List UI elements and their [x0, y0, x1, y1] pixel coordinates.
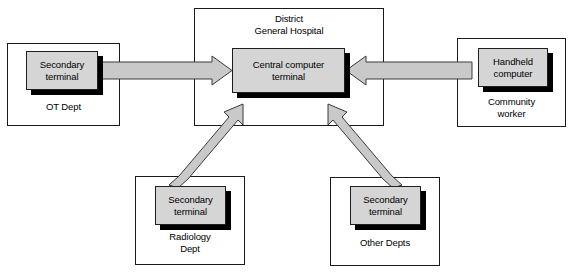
- node-label-central-terminal: Central computer terminal: [250, 59, 327, 82]
- zone-label-radiology-dept: Radiology Dept: [135, 231, 245, 254]
- node-central-terminal: Central computer terminal: [232, 48, 345, 93]
- zone-label-hospital: District General Hospital: [194, 13, 384, 36]
- zone-label-other-depts: Other Depts: [330, 237, 440, 249]
- node-label-ot-terminal: Secondary terminal: [37, 59, 88, 82]
- zone-label-community-worker: Community worker: [457, 96, 566, 119]
- network-diagram: OT Dept Secondary terminal District Gene…: [0, 0, 572, 274]
- zone-label-ot-dept: OT Dept: [7, 101, 120, 113]
- node-label-handheld-computer: Handheld computer: [490, 56, 536, 79]
- node-label-other-terminal: Secondary terminal: [360, 194, 411, 217]
- node-handheld-computer: Handheld computer: [478, 48, 548, 87]
- node-label-radiology-terminal: Secondary terminal: [165, 194, 216, 217]
- node-ot-terminal: Secondary terminal: [26, 51, 98, 90]
- node-other-terminal: Secondary terminal: [350, 186, 421, 225]
- node-radiology-terminal: Secondary terminal: [155, 186, 226, 225]
